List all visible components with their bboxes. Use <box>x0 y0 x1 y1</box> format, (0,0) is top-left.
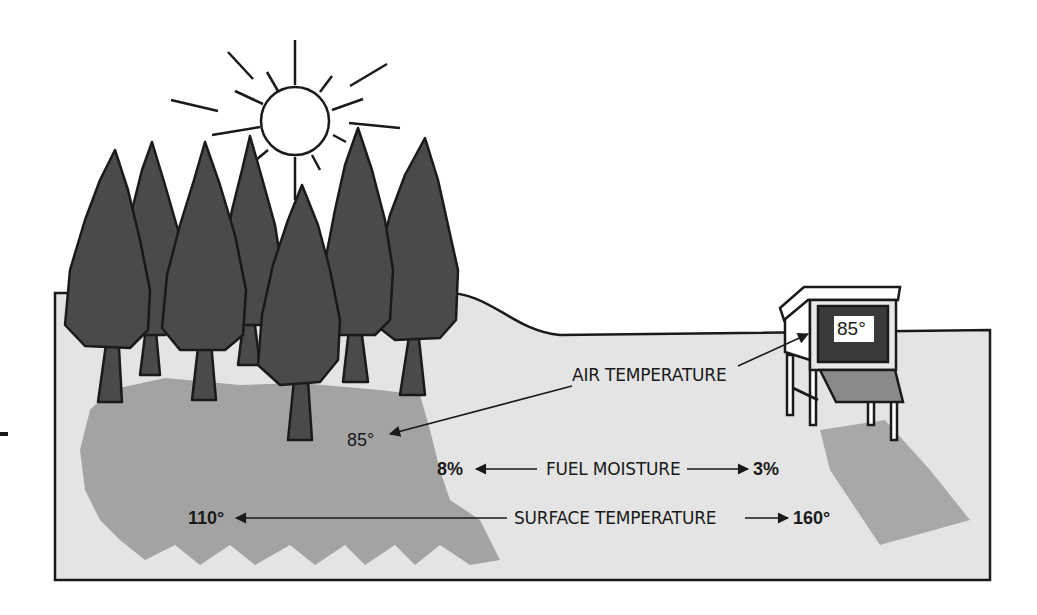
forest-surface-temp: 110° <box>188 508 224 529</box>
margin-mark <box>0 432 8 436</box>
fuel-moisture-label: FUEL MOISTURE <box>546 459 680 479</box>
open-fuel-moisture: 3% <box>753 459 779 480</box>
forest-fuel-moisture: 8% <box>437 459 463 480</box>
forest-air-temp: 85° <box>347 430 374 451</box>
surface-temperature-label: SURFACE TEMPERATURE <box>514 508 716 528</box>
shelter-reading: 85° <box>837 318 866 340</box>
open-surface-temp: 160° <box>793 508 830 529</box>
air-temperature-label: AIR TEMPERATURE <box>572 365 726 385</box>
